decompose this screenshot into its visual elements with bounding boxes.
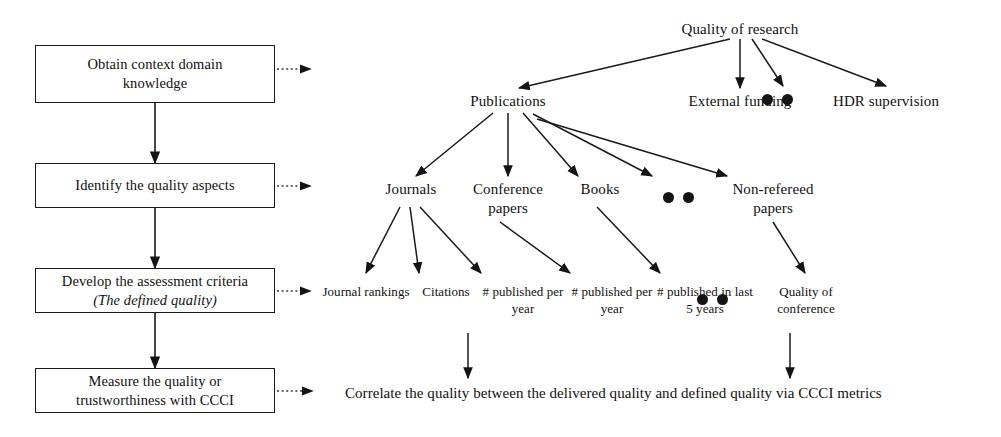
tree-node-external-funding[interactable]: External funding (660, 92, 820, 111)
leaf-journal-rankings[interactable]: Journal rankings (322, 284, 410, 301)
edge-non-refereed-quality-of-conference (773, 222, 805, 273)
leaf-published-per-year-conference[interactable]: # published per year (567, 284, 657, 318)
diagram-canvas: Obtain context domain knowledge Identify… (0, 0, 1001, 437)
ellipsis-dot (697, 294, 708, 305)
process-box-line2: knowledge (123, 74, 188, 93)
ellipsis-dot (683, 192, 694, 203)
edge-publications-non-refereed (537, 119, 727, 176)
edge-journals-journal-rankings (366, 207, 400, 273)
tree-node-conference-papers[interactable]: Conference papers (459, 180, 557, 218)
edge-journals-citations (410, 207, 419, 273)
tree-node-publications[interactable]: Publications (428, 92, 588, 111)
edge-root-ellipsis (752, 39, 783, 86)
edge-publications-ellipsis (533, 114, 652, 176)
diagram-caption: Correlate the quality between the delive… (345, 384, 882, 403)
ellipsis-level1 (762, 94, 793, 105)
tree-node-books[interactable]: Books (560, 180, 640, 199)
ellipsis-leaves (697, 294, 728, 305)
process-box-line1: Identify the quality aspects (75, 176, 234, 195)
process-box-identify-the-quality-aspects[interactable]: Identify the quality aspects (35, 163, 275, 208)
leaf-quality-of-conference[interactable]: Quality of conference (762, 284, 850, 318)
process-box-line1: Develop the assessment criteria (62, 272, 248, 291)
tree-node-journals[interactable]: Journals (356, 180, 466, 199)
edge-root-hdr-supervision (762, 39, 886, 86)
ellipsis-dot (717, 294, 728, 305)
edge-root-publications (519, 39, 730, 88)
ellipsis-dot (782, 94, 793, 105)
process-box-line1: Obtain context domain (88, 55, 223, 74)
edge-books-published-last-5-years (597, 207, 660, 273)
tree-node-quality-of-research[interactable]: Quality of research (640, 20, 840, 39)
tree-node-non-refereed-papers[interactable]: Non-refereed papers (718, 180, 828, 218)
process-box-obtain-context-domain-knowledge[interactable]: Obtain context domain knowledge (35, 45, 275, 103)
process-box-line2: trustworthiness with CCCI (76, 391, 234, 410)
tree-node-hdr-supervision[interactable]: HDR supervision (806, 92, 966, 111)
ellipsis-level2 (663, 192, 694, 203)
leaf-citations[interactable]: Citations (411, 284, 481, 301)
process-box-line1: Measure the quality or (88, 372, 221, 391)
process-box-line2: (The defined quality) (93, 291, 217, 310)
ellipsis-dot (663, 192, 674, 203)
process-box-measure-the-quality-or-trustworthiness[interactable]: Measure the quality or trustworthiness w… (35, 368, 275, 413)
edge-publications-journals (416, 113, 493, 176)
edge-publications-books (523, 113, 578, 176)
leaf-published-per-year-journals[interactable]: # published per year (478, 284, 568, 318)
process-box-develop-the-assessment-criteria[interactable]: Develop the assessment criteria (The def… (35, 268, 275, 313)
ellipsis-dot (762, 94, 773, 105)
edge-conference-papers-published-per-year (500, 222, 570, 273)
